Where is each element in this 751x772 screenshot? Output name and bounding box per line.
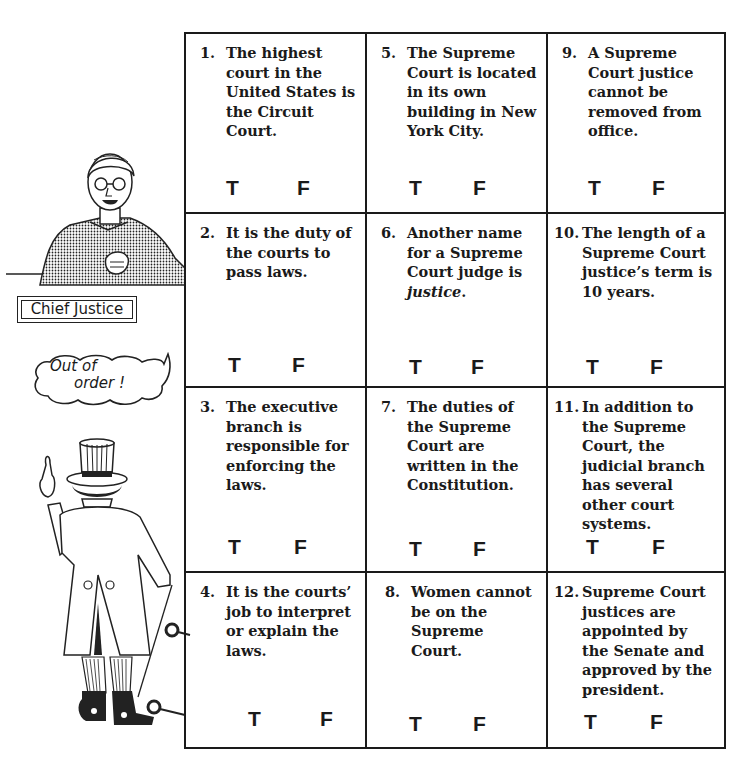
question-number: 2.	[200, 223, 226, 282]
question-statement: A Supreme Court justice cannot be remove…	[588, 43, 716, 141]
question-card-1: 1. The highest court in the United State…	[186, 34, 365, 212]
question-number: 11.	[554, 397, 582, 534]
false-option[interactable]: F	[320, 708, 333, 729]
question-card-11: 11. In addition to the Supreme Court, th…	[548, 388, 724, 571]
false-option[interactable]: F	[650, 356, 663, 377]
statement-italic-term: justice	[407, 283, 461, 300]
statement-part: .	[461, 283, 466, 300]
question-text: 7. The duties of the Supreme Court are w…	[381, 397, 538, 495]
question-card-10: 10. The length of a Supreme Court justic…	[548, 214, 724, 386]
question-text: 11. In addition to the Supreme Court, th…	[554, 397, 716, 534]
question-statement: It is the courts’ job to interpret or ex…	[226, 582, 357, 660]
question-text: 2. It is the duty of the courts to pass …	[200, 223, 357, 282]
chief-justice-drawing	[0, 140, 190, 300]
false-option[interactable]: F	[652, 536, 665, 557]
question-statement: The Supreme Court is located in its own …	[407, 43, 538, 141]
question-card-4: 4. It is the courts’ job to interpret or…	[186, 573, 365, 749]
false-option[interactable]: F	[471, 356, 484, 377]
question-statement: Another name for a Supreme Court judge i…	[407, 223, 538, 301]
question-card-9: 9. A Supreme Court justice cannot be rem…	[548, 34, 724, 212]
question-text: 10. The length of a Supreme Court justic…	[554, 223, 716, 301]
question-card-2: 2. It is the duty of the courts to pass …	[186, 214, 365, 386]
false-option[interactable]: F	[650, 711, 663, 732]
statement-part: Another name for a Supreme Court judge i…	[407, 224, 523, 280]
question-number: 9.	[562, 43, 588, 141]
question-number: 10.	[554, 223, 582, 301]
false-option[interactable]: F	[473, 713, 486, 734]
question-number: 1.	[200, 43, 226, 141]
false-option[interactable]: F	[292, 354, 305, 375]
question-card-3: 3. The executive branch is responsible f…	[186, 388, 365, 571]
speech-bubble-text: Out of order !	[46, 358, 156, 392]
question-card-6: 6. Another name for a Supreme Court judg…	[367, 214, 546, 386]
true-option[interactable]: T	[226, 177, 239, 198]
question-statement: The duties of the Supreme Court are writ…	[407, 397, 538, 495]
question-number: 4.	[200, 582, 226, 660]
question-card-8: 8. Women cannot be on the Supreme Court.…	[367, 573, 546, 749]
true-option[interactable]: T	[409, 356, 422, 377]
question-text: 9. A Supreme Court justice cannot be rem…	[562, 43, 716, 141]
chief-justice-nameplate: Chief Justice	[17, 296, 137, 323]
question-text: 3. The executive branch is responsible f…	[200, 397, 357, 495]
true-option[interactable]: T	[248, 708, 261, 729]
question-card-12: 12. Supreme Court justices are appointed…	[548, 573, 724, 749]
true-option[interactable]: T	[586, 356, 599, 377]
question-number: 8.	[385, 582, 411, 660]
question-number: 3.	[200, 397, 226, 495]
false-option[interactable]: F	[294, 536, 307, 557]
uncle-sam-illustration	[20, 435, 195, 740]
question-number: 7.	[381, 397, 407, 495]
chief-justice-illustration	[0, 140, 190, 300]
uncle-sam-drawing	[20, 435, 195, 740]
question-text: 1. The highest court in the United State…	[200, 43, 357, 141]
question-statement: Women cannot be on the Supreme Court.	[411, 582, 538, 660]
question-number: 12.	[554, 582, 582, 699]
question-text: 12. Supreme Court justices are appointed…	[554, 582, 716, 699]
false-option[interactable]: F	[652, 177, 665, 198]
false-option[interactable]: F	[297, 177, 310, 198]
true-option[interactable]: T	[228, 536, 241, 557]
question-text: 4. It is the courts’ job to interpret or…	[200, 582, 357, 660]
true-option[interactable]: T	[228, 354, 241, 375]
true-option[interactable]: T	[584, 711, 597, 732]
speech-bubble-line-2: order !	[46, 375, 156, 392]
true-option[interactable]: T	[409, 538, 422, 559]
question-statement: In addition to the Supreme Court, the ju…	[582, 397, 716, 534]
question-statement: It is the duty of the courts to pass law…	[226, 223, 357, 282]
false-option[interactable]: F	[473, 177, 486, 198]
question-text: 5. The Supreme Court is located in its o…	[381, 43, 538, 141]
false-option[interactable]: F	[473, 538, 486, 559]
speech-bubble-line-1: Out of	[46, 358, 156, 375]
chief-justice-label: Chief Justice	[31, 300, 124, 318]
true-false-grid: 1. The highest court in the United State…	[184, 32, 726, 749]
question-card-7: 7. The duties of the Supreme Court are w…	[367, 388, 546, 571]
true-option[interactable]: T	[409, 177, 422, 198]
true-option[interactable]: T	[409, 713, 422, 734]
question-statement: Supreme Court justices are appointed by …	[582, 582, 716, 699]
true-option[interactable]: T	[588, 177, 601, 198]
question-number: 6.	[381, 223, 407, 301]
question-statement: The highest court in the United States i…	[226, 43, 357, 141]
question-text: 8. Women cannot be on the Supreme Court.	[385, 582, 538, 660]
question-text: 6. Another name for a Supreme Court judg…	[381, 223, 538, 301]
question-card-5: 5. The Supreme Court is located in its o…	[367, 34, 546, 212]
question-number: 5.	[381, 43, 407, 141]
true-option[interactable]: T	[586, 536, 599, 557]
question-statement: The executive branch is responsible for …	[226, 397, 357, 495]
question-statement: The length of a Supreme Court justice’s …	[582, 223, 716, 301]
